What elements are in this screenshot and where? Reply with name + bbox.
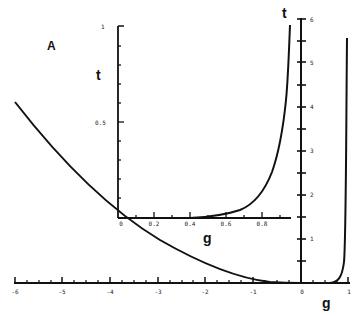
main-y-tick-labels: 1 2 3 4 5 6 (310, 16, 314, 242)
y-tick-label: 6 (310, 16, 314, 23)
inset-x-tick-label: 0 (119, 220, 123, 227)
x-tick-label: -4 (106, 288, 114, 295)
inset-y-axis-label: t (96, 67, 101, 83)
x-tick-label: -2 (201, 288, 209, 295)
y-tick-label: 5 (310, 59, 314, 66)
x-tick-label: 1 (347, 288, 351, 295)
inset-y-tick-label: 0.5 (95, 119, 106, 126)
x-tick-label: -6 (11, 288, 19, 295)
main-x-axis-label: g (322, 295, 331, 311)
inset-y-tick-label: 1 (101, 23, 105, 30)
x-tick-label: -3 (154, 288, 162, 295)
main-y-axis (297, 18, 306, 283)
y-tick-label: 1 (310, 235, 314, 242)
inset-x-tick-label: 0.6 (221, 220, 232, 227)
main-curve-left (15, 102, 301, 283)
x-tick-label: -5 (58, 288, 66, 295)
chart-canvas: -6 -5 -4 -3 -2 -1 0 1 g 1 2 3 4 5 (0, 0, 358, 316)
inset-curve (190, 25, 290, 218)
inset-x-tick-label: 0.4 (185, 220, 196, 227)
y-tick-label: 3 (310, 147, 314, 154)
main-y-axis-label: t (282, 5, 287, 21)
inset-x-tick-label: 0.8 (257, 220, 268, 227)
inset-y-axis (118, 26, 124, 218)
y-tick-label: 2 (310, 191, 314, 198)
inset-x-tick-labels: 0 0.2 0.4 0.6 0.8 (119, 220, 268, 227)
inset-x-tick-label: 0.2 (149, 220, 160, 227)
inset-x-axis-label: g (203, 230, 212, 246)
y-tick-label: 4 (310, 103, 314, 110)
main-curve-right (301, 38, 347, 283)
panel-label: A (47, 39, 56, 53)
x-tick-label: 0 (300, 288, 304, 295)
main-x-tick-labels: -6 -5 -4 -3 -2 -1 0 1 (11, 288, 351, 295)
x-tick-label: -1 (249, 288, 257, 295)
